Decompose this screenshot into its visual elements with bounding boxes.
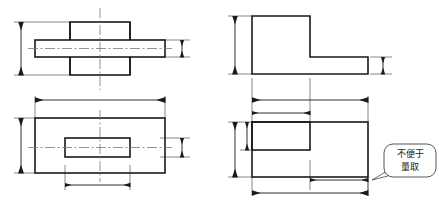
callout-text-line2: 量取 xyxy=(401,162,419,172)
callout-text-line1: 不便于 xyxy=(397,148,424,159)
drawing-canvas: 不便于 量取 xyxy=(0,0,439,203)
engineering-drawing-sheet: 不便于 量取 xyxy=(0,0,439,203)
